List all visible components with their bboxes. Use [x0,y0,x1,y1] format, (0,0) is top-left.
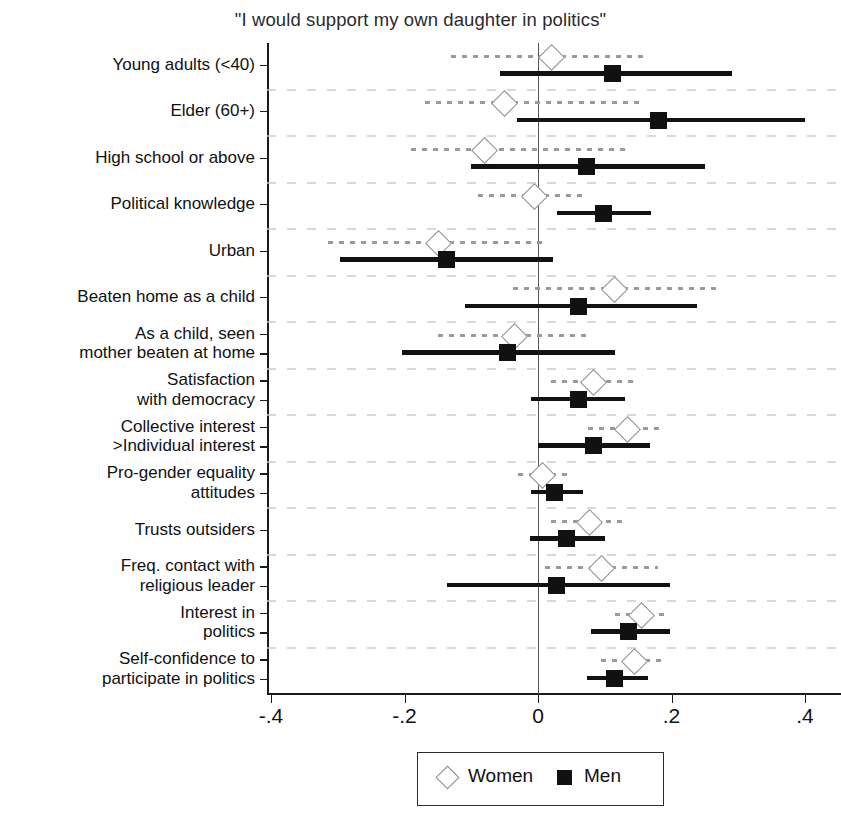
legend-label-men: Men [584,765,621,787]
y-axis-tick [260,613,267,614]
y-axis-label: Elder (60+) [5,101,255,121]
data-point-men [546,484,563,501]
data-point-men [499,344,516,361]
data-point-women [614,416,641,443]
grid-band [267,275,841,277]
y-axis-tick [260,586,267,587]
x-axis-tick [538,694,539,703]
y-axis-tick [260,659,267,660]
x-axis-tick-label: .4 [775,704,835,728]
data-point-men [650,112,667,129]
x-axis-tick-label: -.4 [241,704,301,728]
data-point-men [604,65,621,82]
y-axis-label: Trusts outsiders [5,520,255,540]
y-axis-tick [260,400,267,401]
y-axis-tick [260,158,267,159]
y-axis-tick [260,632,267,633]
y-axis-label: Self-confidence toparticipate in politic… [5,649,255,688]
y-axis-label: Satisfactionwith democracy [5,370,255,409]
legend-item-women: Women [439,766,533,788]
grid-band [267,461,841,463]
x-axis-tick-label: .2 [642,704,702,728]
y-axis-tick [260,204,267,205]
y-axis-label: Freq. contact withreligious leader [5,556,255,595]
data-point-men [578,158,595,175]
data-point-women [522,183,549,210]
grid-band [267,600,841,602]
data-point-women [588,555,615,582]
y-axis-tick [260,493,267,494]
data-point-men [570,391,587,408]
y-axis-tick [260,530,267,531]
y-axis-label: Interest inpolitics [5,603,255,642]
x-axis-tick [405,694,406,703]
confidence-interval-women [411,148,625,151]
y-axis-tick [260,353,267,354]
data-point-men [558,530,575,547]
chart-title: "I would support my own daughter in poli… [0,9,841,31]
y-axis-label: Political knowledge [5,194,255,214]
open-diamond-icon [435,765,459,789]
grid-band [267,368,841,370]
x-axis-tick [271,694,272,703]
y-axis-label: High school or above [5,148,255,168]
data-point-men [585,437,602,454]
y-axis-tick [260,111,267,112]
data-point-men [548,577,565,594]
filled-square-icon [557,770,572,785]
grid-band [267,647,841,649]
y-axis-tick [260,679,267,680]
y-axis-tick [260,380,267,381]
y-axis-label: As a child, seenmother beaten at home [5,324,255,363]
x-axis-tick-label: 0 [508,704,568,728]
data-point-men [620,623,637,640]
y-axis-label: Beaten home as a child [5,287,255,307]
x-axis-tick [805,694,806,703]
data-point-women [491,90,518,117]
data-point-women [621,648,648,675]
grid-band [267,321,841,323]
y-axis-label: Collective interest>Individual interest [5,417,255,456]
data-point-women [576,509,603,536]
confidence-interval-women [425,101,645,104]
y-axis-tick [260,446,267,447]
data-point-men [438,251,455,268]
y-axis-tick [260,65,267,66]
y-axis-tick [260,566,267,567]
data-point-men [606,670,623,687]
coefficient-plot-figure: "I would support my own daughter in poli… [0,0,841,818]
y-axis-tick [260,334,267,335]
grid-band [267,228,841,230]
legend: Women Men [417,752,664,806]
y-axis-label: Pro-gender equalityattitudes [5,463,255,502]
grid-band [267,135,841,137]
grid-band [267,182,841,184]
grid-band [267,554,841,556]
grid-band [267,507,841,509]
y-axis-tick [260,427,267,428]
data-point-women [471,137,498,164]
data-point-women [538,44,565,71]
grid-band [267,89,841,91]
y-axis-label: Young adults (<40) [5,55,255,75]
x-axis-tick-label: -.2 [375,704,435,728]
y-axis-label: Urban [5,241,255,261]
legend-label-women: Women [468,765,533,787]
data-point-men [595,205,612,222]
x-axis-tick [672,694,673,703]
y-axis-tick [260,473,267,474]
y-axis-tick [260,251,267,252]
data-point-men [570,298,587,315]
data-point-women [601,276,628,303]
x-axis-line [267,693,841,695]
legend-item-men: Men [557,766,621,788]
grid-band [267,414,841,416]
y-axis-tick [260,297,267,298]
